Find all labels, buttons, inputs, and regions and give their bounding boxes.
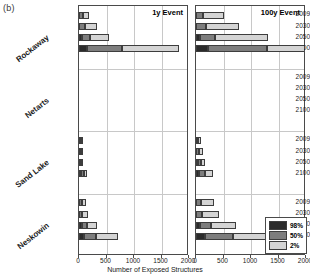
x-tick-mark [195, 255, 196, 258]
y-tick-rockaway-2030: 2030 [236, 22, 310, 29]
x-tick-mark [161, 255, 162, 258]
bar-segment-2 [85, 23, 97, 30]
legend-item-2: 2% [269, 241, 303, 250]
bar-segment-2 [202, 211, 219, 218]
legend-item-50: 50% [269, 231, 303, 240]
x-tick-label-0: 0 [76, 257, 80, 264]
bar-segment-2 [81, 148, 83, 155]
bar-segment-98 [79, 45, 87, 52]
x-tick-label-1500: 1500 [153, 257, 167, 264]
bar-segment-2 [82, 211, 88, 218]
bar-rockaway-2009 [196, 12, 224, 19]
bar-rockaway-2030 [196, 23, 239, 30]
bar-neskowin-2050 [79, 222, 97, 229]
bar-segment-50 [208, 45, 267, 52]
panel-title-100y: 100y Event [261, 8, 300, 17]
legend-label-50: 50% [290, 232, 303, 239]
group-label-netarts: Netarts [7, 96, 50, 133]
bar-segment-2 [82, 199, 86, 206]
bar-segment-98 [196, 45, 208, 52]
bar-segment-2 [96, 233, 118, 240]
bar-rockaway-2100 [79, 45, 179, 52]
figure-panel-label: (b) [3, 3, 15, 13]
bar-neskowin-2050 [196, 222, 236, 229]
bar-segment-98 [196, 233, 205, 240]
y-tick-sand-lake-2030: 2030 [236, 147, 310, 154]
y-tick-sand-lake-2050: 2050 [236, 158, 310, 165]
bar-segment-50 [205, 233, 233, 240]
bar-neskowin-2009 [79, 199, 86, 206]
group-label-sand-lake: Sand Lake [7, 158, 50, 195]
bar-neskowin-2009 [196, 199, 214, 206]
bar-segment-2 [211, 222, 236, 229]
x-tick-label-1000: 1000 [243, 257, 257, 264]
gridline-vertical [134, 6, 135, 254]
bar-segment-2 [201, 159, 205, 166]
chart-legend: 98% 50% 2% [265, 217, 307, 254]
bar-segment-2 [205, 170, 213, 177]
gridline-horizontal [79, 69, 187, 70]
x-tick-mark [305, 255, 306, 258]
figure-canvas: (b) 1y Event 100y Event Number of Expose… [0, 0, 310, 278]
gridline-horizontal [79, 131, 187, 132]
bar-segment-50 [196, 23, 206, 30]
x-tick-mark [78, 255, 79, 258]
x-tick-label-1000: 1000 [126, 257, 140, 264]
x-tick-mark [223, 255, 224, 258]
y-tick-netarts-2100: 2100 [236, 106, 310, 113]
bar-neskowin-2030 [79, 211, 88, 218]
bar-segment-2 [201, 199, 214, 206]
legend-swatch-98 [269, 221, 287, 230]
y-tick-sand-lake-2100: 2100 [236, 169, 310, 176]
legend-label-2: 2% [290, 242, 299, 249]
bar-segment-50 [87, 45, 122, 52]
x-tick-label-0: 0 [193, 257, 197, 264]
legend-label-98: 98% [290, 222, 303, 229]
gridline-vertical [107, 6, 108, 254]
bar-segment-2 [87, 222, 97, 229]
bar-segment-50 [82, 34, 90, 41]
bar-segment-2 [84, 170, 87, 177]
x-axis-label: Number of Exposed Structures [0, 266, 310, 273]
bar-sand-lake-2100 [196, 170, 213, 177]
bar-segment-2 [81, 159, 83, 166]
x-tick-label-500: 500 [100, 257, 111, 264]
gridline-horizontal [196, 194, 304, 195]
group-label-rockaway: Rockaway [7, 33, 50, 70]
bar-sand-lake-2100 [79, 170, 87, 177]
y-tick-sand-lake-2009: 2009 [236, 135, 310, 142]
x-tick-mark [133, 255, 134, 258]
bar-segment-50 [84, 233, 96, 240]
bar-sand-lake-2050 [196, 159, 205, 166]
bar-segment-2 [203, 12, 224, 19]
gridline-horizontal [79, 194, 187, 195]
x-tick-mark [106, 255, 107, 258]
bar-rockaway-2009 [79, 12, 89, 19]
y-tick-netarts-2050: 2050 [236, 95, 310, 102]
legend-swatch-2 [269, 241, 287, 250]
bar-segment-2 [90, 34, 109, 41]
y-tick-neskowin-2009: 2009 [236, 198, 310, 205]
bar-segment-2 [81, 137, 83, 144]
bar-segment-2 [206, 23, 239, 30]
y-tick-netarts-2030: 2030 [236, 84, 310, 91]
bar-rockaway-2050 [79, 34, 109, 41]
x-tick-label-1500: 1500 [270, 257, 284, 264]
bar-rockaway-2100 [196, 45, 305, 52]
gridline-horizontal [196, 69, 304, 70]
panel-title-1y: 1y Event [152, 8, 183, 17]
y-tick-neskowin-2030: 2030 [236, 209, 310, 216]
bar-segment-50 [196, 12, 203, 19]
bar-segment-50 [200, 222, 211, 229]
bar-segment-2 [122, 45, 178, 52]
x-tick-label-2000: 2000 [298, 257, 310, 264]
bar-segment-2 [199, 148, 203, 155]
gridline-vertical [224, 6, 225, 254]
bar-neskowin-2100 [79, 233, 118, 240]
x-tick-label-500: 500 [217, 257, 228, 264]
bar-segment-50 [200, 34, 215, 41]
bar-neskowin-2030 [196, 211, 219, 218]
bar-sand-lake-2030 [196, 148, 203, 155]
group-label-neskowin: Neskowin [7, 221, 50, 258]
y-tick-netarts-2009: 2009 [236, 73, 310, 80]
